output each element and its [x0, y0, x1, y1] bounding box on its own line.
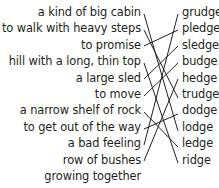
match-line [144, 112, 178, 147]
match-lines [0, 0, 219, 188]
match-line [144, 30, 178, 98]
